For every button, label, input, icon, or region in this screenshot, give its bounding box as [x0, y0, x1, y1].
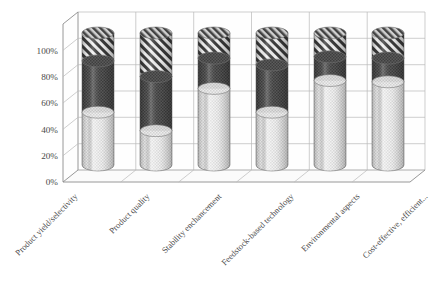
y-tick-label: 0%: [46, 177, 59, 187]
y-tick-label: 80%: [41, 72, 58, 82]
chart-container: 100% 80% 60% 40% 20% 0%: [0, 0, 445, 297]
y-tick-label: 20%: [41, 151, 58, 161]
bar-group[interactable]: [372, 27, 404, 171]
category-label: Product quality: [107, 191, 152, 236]
category-label: Cost-effective, efficient...: [360, 191, 429, 260]
y-axis-tick-labels: 100% 80% 60% 40% 20% 0%: [37, 46, 59, 188]
bar-group[interactable]: [140, 27, 172, 171]
bar-group[interactable]: [314, 27, 346, 171]
bar-group[interactable]: [82, 27, 114, 171]
y-tick-label: 40%: [41, 125, 58, 135]
bar-group[interactable]: [198, 27, 230, 171]
category-label: Stability enchancement: [159, 191, 223, 255]
y-tick-label: 60%: [41, 98, 58, 108]
stacked-column-chart: 100% 80% 60% 40% 20% 0%: [0, 0, 445, 297]
category-label: Environmental aspects: [299, 191, 362, 254]
bar-group[interactable]: [256, 27, 288, 171]
category-label: Feedstock-based technology: [219, 191, 296, 268]
x-axis-category-labels: Product yield/selectivity Product qualit…: [13, 191, 429, 268]
chart-3d-frame: [63, 12, 425, 182]
y-tick-label: 100%: [37, 46, 59, 56]
category-label: Product yield/selectivity: [13, 191, 80, 258]
